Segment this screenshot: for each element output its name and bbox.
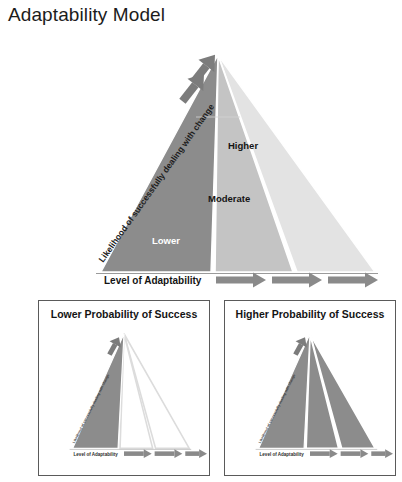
panel-lower-probability-svg: Level of Adaptability Likelihood of succ… [39,321,209,475]
panel-higher-x-arrow-2 [341,449,369,458]
panel-higher-probability-title: Higher Probability of Success [225,308,395,320]
x-axis-label: Level of Adaptability [104,275,202,286]
panel-lower-x-arrow-2 [155,449,183,458]
comparison-panels: Lower Probability of Success Level of Ad… [0,296,402,482]
panel-higher-x-axis-label: Level of Adaptability [260,452,305,457]
adaptability-triangle-svg: Higher Moderate Lower Level of Adaptabil… [0,22,402,294]
panel-lower-probability: Lower Probability of Success Level of Ad… [38,300,210,476]
panel-higher-x-arrow-1 [310,449,338,458]
panel-higher-probability-svg: Level of Adaptability Likelihood of succ… [225,321,395,475]
band-label-higher: Higher [228,140,258,151]
main-diagram: Higher Moderate Lower Level of Adaptabil… [0,22,402,294]
panel-higher-probability: Higher Probability of Success Level of A… [224,300,396,476]
panel-higher-x-arrow-3 [371,449,393,458]
band-label-lower: Lower [152,235,180,246]
panel-lower-x-axis-label: Level of Adaptability [74,452,119,457]
panel-lower-probability-title: Lower Probability of Success [39,308,209,320]
x-axis-arrow-1 [216,273,266,288]
panel-lower-x-arrow-1 [124,449,152,458]
x-axis-arrow-2 [272,273,322,288]
x-axis-arrow-3 [328,273,378,288]
band-label-moderate: Moderate [208,193,250,204]
panel-lower-x-arrow-3 [185,449,207,458]
